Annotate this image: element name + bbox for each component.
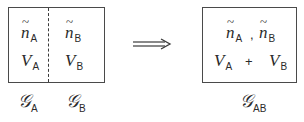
- separator-comma: ,: [250, 28, 254, 41]
- volume-V-B: VB: [65, 52, 83, 69]
- volume-V-A: VA: [21, 52, 39, 69]
- volume-V-A-combined: VA: [214, 52, 232, 69]
- double-arrow-right-icon: [133, 38, 173, 50]
- density-n-A-combined: nA: [226, 24, 242, 41]
- system-label-G-B: 𝒢B: [66, 92, 86, 110]
- plus-operator: +: [245, 55, 253, 68]
- system-label-G-A: 𝒢A: [18, 92, 38, 110]
- density-n-B: nB: [65, 24, 81, 41]
- volume-V-B-combined: VB: [269, 52, 287, 69]
- partition-divider: [48, 8, 49, 82]
- system-label-G-AB: 𝒢AB: [240, 92, 266, 110]
- density-n-A: nA: [21, 24, 37, 41]
- density-n-B-combined: nB: [259, 24, 275, 41]
